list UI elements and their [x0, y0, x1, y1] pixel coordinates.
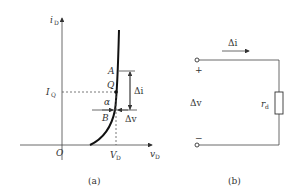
- point-b-label: B: [101, 113, 109, 123]
- point-a-label: A: [107, 66, 115, 76]
- svg-text:D: D: [155, 153, 160, 160]
- caption-b: (b): [228, 176, 241, 186]
- alpha-label: α: [104, 97, 110, 107]
- iq-label: I: [45, 87, 50, 97]
- iv-curve: [90, 30, 119, 145]
- origin-label: O: [56, 148, 64, 158]
- figure-b: Δi + − Δv r d (b): [190, 38, 283, 186]
- resistor: [275, 92, 283, 114]
- svg-text:D: D: [54, 19, 59, 26]
- top-terminal: [195, 58, 199, 62]
- figure-a: i D v D O I Q V D A Q B α Δi Δv (a): [20, 15, 160, 186]
- point-q-label: Q: [107, 80, 115, 90]
- delta-v-label: Δv: [125, 114, 137, 124]
- svg-text:Q: Q: [51, 91, 56, 98]
- current-label: Δi: [228, 38, 237, 48]
- q-point: [114, 90, 118, 94]
- bottom-terminal: [195, 143, 199, 147]
- caption-a: (a): [88, 176, 100, 186]
- diode-small-signal-diagram: i D v D O I Q V D A Q B α Δi Δv (a) Δi +…: [0, 0, 300, 196]
- minus-sign: −: [195, 133, 203, 143]
- plus-sign: +: [195, 65, 203, 75]
- delta-i-label: Δi: [134, 86, 143, 96]
- svg-text:D: D: [116, 154, 121, 161]
- voltage-label: Δv: [190, 98, 202, 108]
- svg-text:d: d: [265, 103, 269, 110]
- y-axis-label: i: [50, 15, 53, 25]
